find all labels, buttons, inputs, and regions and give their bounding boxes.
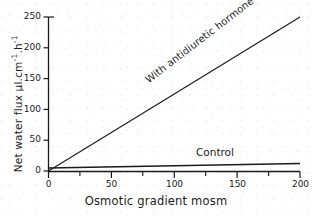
y-tick-label-250: 250 bbox=[10, 11, 41, 21]
series-annotation-control: Control bbox=[196, 146, 234, 158]
x-axis-major-ticks bbox=[49, 172, 301, 179]
y-axis-title-text: Net water flux µl.cm bbox=[12, 61, 24, 172]
x-tick-label-50: 50 bbox=[99, 179, 124, 189]
series-line-control bbox=[49, 164, 301, 169]
x-tick-label-0: 0 bbox=[36, 179, 61, 189]
x-tick-label-100: 100 bbox=[162, 179, 187, 189]
y-axis-ticks bbox=[44, 17, 49, 171]
y-axis-title-exp2: -1 bbox=[10, 35, 19, 43]
series-line-antidiuretic-hormone bbox=[49, 17, 301, 171]
x-tick-label-150: 150 bbox=[225, 179, 250, 189]
chart-figure: 250 200 150 100 50 0 0 50 100 150 200 Ne… bbox=[0, 0, 312, 216]
x-axis-title: Osmotic gradient mosm bbox=[0, 194, 312, 208]
y-axis-title-exp1: -1 bbox=[10, 54, 19, 62]
y-axis-title: Net water flux µl.cm-1.h-1 bbox=[10, 24, 24, 184]
y-axis-title-mid: .h bbox=[12, 43, 24, 53]
x-tick-label-200: 200 bbox=[288, 179, 312, 189]
